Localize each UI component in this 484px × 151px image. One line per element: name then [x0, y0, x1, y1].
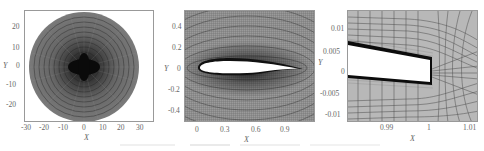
x-tick: -30	[21, 124, 31, 132]
y-tick: 20	[12, 23, 20, 31]
y-axis-label: Y	[318, 58, 322, 67]
y-tick: -0.005	[320, 90, 339, 98]
y-tick: 0.2	[172, 44, 181, 52]
y-tick: -0.4	[168, 107, 180, 115]
x-tick: 0.99	[380, 124, 393, 132]
x-tick: 0.9	[280, 126, 289, 134]
panel-trailing-edge: 0.01 0.005 0 -0.005 -0.01 Y 0.99 1 1.01 …	[320, 0, 484, 140]
y-tick: 0.005	[323, 48, 340, 56]
y-tick: -0.01	[325, 111, 341, 119]
x-tick: 1.01	[463, 124, 476, 132]
x-tick: 10	[99, 124, 107, 132]
x-tick: 30	[136, 124, 144, 132]
y-tick: 0	[341, 68, 345, 76]
y-tick: 10	[12, 44, 20, 52]
airfoil-mesh-plot	[185, 11, 315, 122]
y-axis-label: Y	[3, 61, 7, 70]
plot-frame	[347, 10, 478, 122]
y-tick: -10	[6, 81, 16, 89]
x-tick: -10	[58, 124, 68, 132]
x-axis-label: X	[84, 133, 89, 142]
caption-placeholder	[100, 141, 400, 149]
x-tick: 1	[427, 124, 431, 132]
x-tick: 0	[82, 124, 86, 132]
panel-far-field: 20 10 0 -10 -20 Y -30 -20 -10 0 10 20 30…	[0, 0, 160, 140]
x-tick: 0.6	[251, 126, 260, 134]
x-tick: 0.3	[220, 126, 229, 134]
plot-frame	[184, 10, 315, 122]
y-tick: 0	[16, 62, 20, 70]
y-axis-label: Y	[164, 64, 168, 73]
y-tick: -20	[6, 101, 16, 109]
panel-airfoil: 0.4 0.2 0 -0.2 -0.4 Y 0 0.3 0.6 0.9 X	[160, 0, 320, 140]
trailing-edge-mesh-plot	[348, 11, 478, 122]
x-axis-label: X	[410, 134, 415, 143]
y-tick: -0.2	[168, 86, 180, 94]
y-tick: 0.4	[172, 23, 181, 31]
x-tick: 0	[195, 126, 199, 134]
y-tick: 0	[177, 65, 181, 73]
y-tick: 0.01	[331, 25, 344, 33]
x-tick: -20	[39, 124, 49, 132]
x-tick: 20	[117, 124, 125, 132]
figure-caption-illegible	[100, 141, 400, 149]
circular-mesh-plot	[25, 11, 154, 122]
plot-frame	[24, 10, 154, 122]
